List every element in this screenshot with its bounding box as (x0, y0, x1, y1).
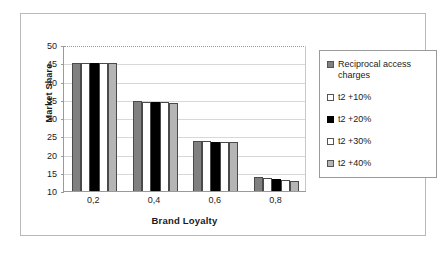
bar-group (186, 46, 247, 191)
bar[interactable] (211, 142, 220, 191)
bar[interactable] (160, 102, 169, 191)
bar[interactable] (151, 102, 160, 191)
legend-label: t2 +30% (338, 136, 371, 147)
bar[interactable] (142, 102, 151, 191)
y-tick-label: 30 (35, 115, 57, 124)
legend-label: t2 +40% (338, 158, 371, 169)
bar[interactable] (72, 63, 81, 191)
x-axis-tick-labels: 0,20,40,60,8 (63, 195, 306, 209)
legend-item[interactable]: t2 +30% (327, 136, 430, 147)
x-axis-title: Brand Loyalty (63, 215, 306, 226)
bar[interactable] (99, 63, 108, 191)
x-tick-label: 0,8 (256, 195, 296, 205)
y-tick-label: 25 (35, 133, 57, 142)
legend-item[interactable]: t2 +20% (327, 114, 430, 125)
chart-frame: Market Share 504540353025201510 0,20,40,… (20, 13, 426, 236)
bars-layer (64, 46, 306, 191)
legend-swatch-icon (327, 116, 334, 123)
bar[interactable] (229, 142, 238, 191)
y-tick-label: 15 (35, 169, 57, 178)
bar[interactable] (254, 177, 263, 191)
y-tick-label: 40 (35, 78, 57, 87)
bar[interactable] (202, 141, 211, 191)
x-tick-label: 0,6 (195, 195, 235, 205)
legend-swatch-icon (327, 94, 334, 101)
bar[interactable] (263, 178, 272, 191)
x-tick-label: 0,2 (73, 195, 113, 205)
legend-item[interactable]: t2 +40% (327, 158, 430, 169)
y-tick-label: 35 (35, 96, 57, 105)
bar[interactable] (290, 181, 299, 191)
plot-area (63, 46, 306, 192)
bar-group (125, 46, 186, 191)
bar[interactable] (281, 180, 290, 191)
y-tick-label: 10 (35, 188, 57, 197)
bar[interactable] (272, 179, 281, 191)
y-tick-label: 20 (35, 151, 57, 160)
bar-group (246, 46, 307, 191)
legend-item[interactable]: Reciprocal access charges (327, 59, 430, 81)
legend-swatch-icon (327, 138, 334, 145)
legend-label: t2 +20% (338, 114, 371, 125)
bar[interactable] (81, 63, 90, 191)
bar[interactable] (90, 63, 99, 191)
bar[interactable] (133, 101, 142, 191)
y-axis-tick-labels: 504540353025201510 (35, 42, 57, 192)
legend-label: t2 +10% (338, 92, 371, 103)
legend-swatch-icon (327, 61, 334, 68)
bar-group (64, 46, 125, 191)
legend-label: Reciprocal access charges (338, 59, 430, 81)
legend-swatch-icon (327, 160, 334, 167)
chart-legend: Reciprocal access chargest2 +10%t2 +20%t… (319, 50, 437, 178)
y-tick-label: 45 (35, 60, 57, 69)
bar[interactable] (220, 142, 229, 191)
y-tickmark (61, 192, 64, 193)
bar[interactable] (108, 63, 117, 191)
bar[interactable] (169, 103, 178, 191)
x-tick-label: 0,4 (134, 195, 174, 205)
legend-item[interactable]: t2 +10% (327, 92, 430, 103)
bar[interactable] (193, 141, 202, 191)
y-tick-label: 50 (35, 42, 57, 51)
